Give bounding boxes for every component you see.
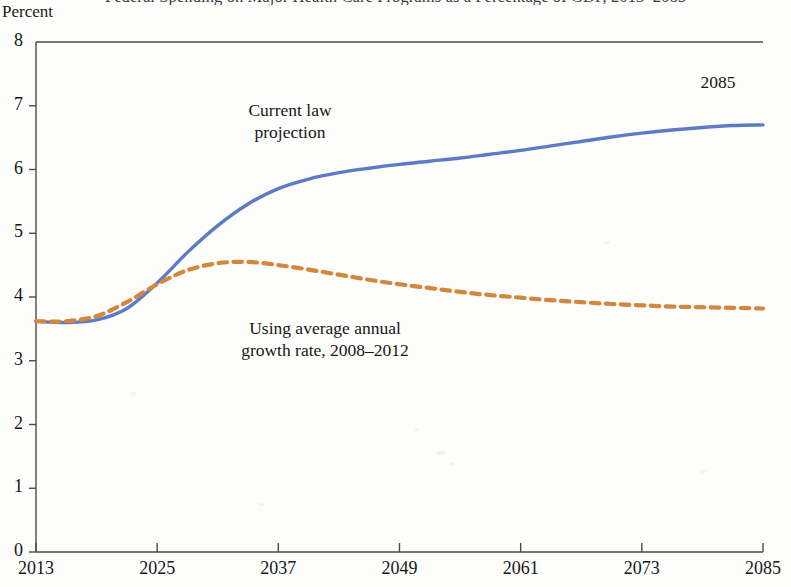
y-tick-label-6: 6 [0, 158, 23, 179]
line-chart [0, 0, 791, 587]
data-series [36, 125, 763, 323]
annotation-endpoint-year: 2085 [678, 72, 758, 94]
axes [36, 42, 763, 552]
y-tick-label-7: 7 [0, 94, 23, 115]
series-line-average-growth-rate [36, 262, 763, 322]
chart-svg [0, 0, 791, 587]
x-tick-label-2085: 2085 [727, 558, 791, 579]
y-tick-label-2: 2 [0, 413, 23, 434]
x-tick-label-2037: 2037 [242, 558, 314, 579]
x-tick-label-2013: 2013 [0, 558, 72, 579]
annotation-current-law: Current law projection [182, 100, 398, 144]
x-tick-label-2025: 2025 [121, 558, 193, 579]
annotation-average-growth-rate: Using average annual growth rate, 2008–2… [190, 318, 460, 362]
x-tick-label-2049: 2049 [364, 558, 436, 579]
y-tick-label-8: 8 [0, 30, 23, 51]
y-tick-label-1: 1 [0, 476, 23, 497]
y-tick-label-4: 4 [0, 285, 23, 306]
x-tick-label-2073: 2073 [606, 558, 678, 579]
y-tick-label-3: 3 [0, 349, 23, 370]
x-tick-label-2061: 2061 [485, 558, 557, 579]
y-tick-label-5: 5 [0, 221, 23, 242]
